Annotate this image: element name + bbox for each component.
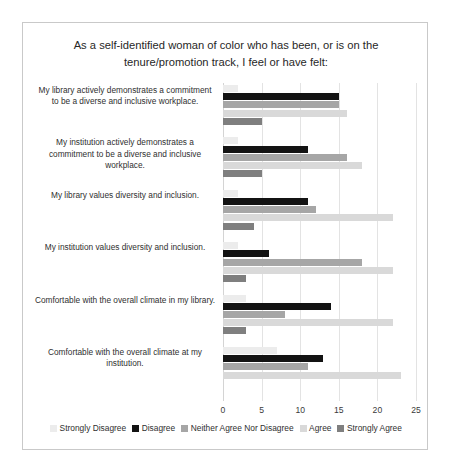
legend-swatch-icon	[50, 425, 57, 432]
bar	[223, 303, 331, 310]
bar	[223, 267, 393, 274]
bar	[223, 206, 316, 213]
bar	[223, 137, 238, 144]
bar	[223, 198, 308, 205]
chart-title: As a self-identified woman of color who …	[49, 37, 403, 71]
category-label: My library values diversity and inclusio…	[34, 190, 216, 202]
x-tick-label: 10	[285, 405, 315, 415]
category-label: Comfortable with the overall climate at …	[34, 347, 216, 370]
bar	[223, 214, 393, 221]
bar	[223, 223, 254, 230]
category-label: My institution actively demonstrates a c…	[34, 137, 216, 172]
bar-group	[223, 295, 417, 335]
x-tick-label: 20	[362, 405, 392, 415]
bar	[223, 250, 269, 257]
bar	[223, 372, 401, 379]
bar	[223, 146, 308, 153]
bar-group	[223, 242, 417, 282]
bar-group	[223, 347, 417, 387]
legend-label: Neither Agree Nor Disagree	[191, 423, 294, 433]
bar	[223, 154, 347, 161]
bar	[223, 170, 262, 177]
bar	[223, 110, 347, 117]
category-label: My institution values diversity and incl…	[34, 242, 216, 254]
plot-area: My library actively demonstrates a commi…	[23, 83, 429, 408]
legend-item: Disagree	[132, 423, 175, 433]
bar	[223, 363, 308, 370]
x-axis: 0510152025	[223, 401, 417, 421]
bar	[223, 85, 238, 92]
x-tick-label: 15	[324, 405, 354, 415]
bar	[223, 347, 277, 354]
bar	[223, 93, 339, 100]
legend-swatch-icon	[132, 425, 139, 432]
x-tick-label: 0	[208, 405, 238, 415]
legend-swatch-icon	[181, 425, 188, 432]
bar-group	[223, 190, 417, 230]
bar	[223, 190, 238, 197]
chart-legend: Strongly DisagreeDisagreeNeither Agree N…	[23, 423, 429, 433]
bar-group	[223, 85, 417, 125]
bar	[223, 242, 238, 249]
bar	[223, 101, 339, 108]
legend-item: Strongly Agree	[337, 423, 401, 433]
bar	[223, 319, 393, 326]
legend-swatch-icon	[337, 425, 344, 432]
bar	[223, 311, 285, 318]
bar-group	[223, 137, 417, 177]
bar	[223, 355, 323, 362]
bar	[223, 259, 362, 266]
x-tick-label: 5	[247, 405, 277, 415]
legend-label: Strongly Agree	[347, 423, 402, 433]
category-label: Comfortable with the overall climate in …	[34, 295, 216, 307]
legend-swatch-icon	[300, 425, 307, 432]
bar	[223, 327, 246, 334]
legend-item: Strongly Disagree	[50, 423, 126, 433]
legend-label: Disagree	[142, 423, 176, 433]
bar	[223, 118, 262, 125]
bar	[223, 295, 246, 302]
legend-label: Agree	[309, 423, 331, 433]
category-label: My library actively demonstrates a commi…	[34, 85, 216, 108]
bar	[223, 162, 362, 169]
x-tick-label: 25	[401, 405, 431, 415]
bar	[223, 275, 246, 282]
legend-item: Neither Agree Nor Disagree	[181, 423, 293, 433]
legend-item: Agree	[300, 423, 332, 433]
legend-label: Strongly Disagree	[60, 423, 127, 433]
chart-frame: As a self-identified woman of color who …	[22, 22, 428, 450]
